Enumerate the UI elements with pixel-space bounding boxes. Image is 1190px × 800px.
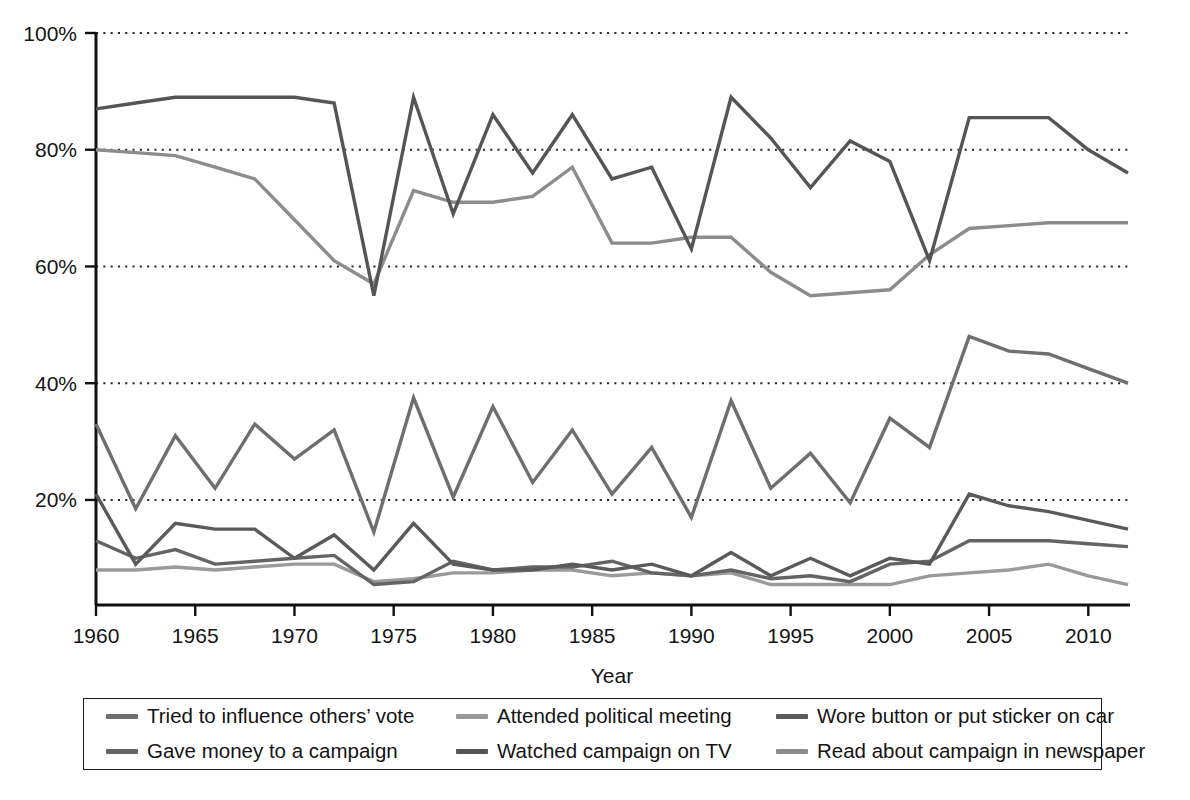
legend-label-tv: Watched campaign on TV [497,741,732,762]
x-tick-label-1960: 1960 [73,624,120,647]
x-axis-title: Year [591,664,633,687]
legend-label-meeting: Attended political meeting [497,706,732,727]
x-tick-label-2010: 2010 [1065,624,1112,647]
y-tick-label-20: 20% [35,488,77,511]
y-tick-label-40: 40% [35,372,77,395]
legend-item-button[interactable]: Wore button or put sticker on car [754,706,1103,727]
legend-item-money[interactable]: Gave money to a campaign [84,741,434,762]
series-lines-group [96,97,1128,584]
legend-item-meeting[interactable]: Attended political meeting [434,706,754,727]
y-tick-label-60: 60% [35,255,77,278]
legend-swatch-tv [456,749,488,754]
series-line-button [96,494,1128,576]
legend-swatch-money [106,749,138,754]
legend-label-influence: Tried to influence others’ vote [147,706,414,727]
legend-label-money: Gave money to a campaign [147,741,398,762]
legend-swatch-influence [106,714,138,719]
x-tick-label-2000: 2000 [866,624,913,647]
x-tick-label-1995: 1995 [767,624,814,647]
legend-swatch-button [776,714,808,719]
line-chart-figure: 20%40%60%80%100%196019651970197519801985… [0,0,1190,800]
chart-plot-area: 20%40%60%80%100%196019651970197519801985… [0,0,1190,690]
x-tick-label-1990: 1990 [668,624,715,647]
series-line-influence [96,337,1128,533]
x-tick-label-1975: 1975 [370,624,417,647]
legend-item-influence[interactable]: Tried to influence others’ vote [84,706,434,727]
series-line-newspaper [96,150,1128,296]
x-tick-label-1965: 1965 [172,624,219,647]
legend-label-newspaper: Read about campaign in newspaper [817,741,1145,762]
legend-item-tv[interactable]: Watched campaign on TV [434,741,754,762]
x-tick-label-1985: 1985 [569,624,616,647]
x-tick-label-2005: 2005 [966,624,1013,647]
legend-item-newspaper[interactable]: Read about campaign in newspaper [754,741,1103,762]
chart-legend: Tried to influence others’ vote Attended… [83,698,1102,770]
x-tick-label-1980: 1980 [470,624,517,647]
x-tick-label-1970: 1970 [271,624,318,647]
series-line-meeting [96,564,1128,584]
y-tick-label-100: 100% [23,22,77,45]
legend-label-button: Wore button or put sticker on car [817,706,1114,727]
legend-swatch-meeting [456,714,488,719]
y-tick-label-80: 80% [35,138,77,161]
series-line-money [96,541,1128,585]
legend-swatch-newspaper [776,749,808,754]
